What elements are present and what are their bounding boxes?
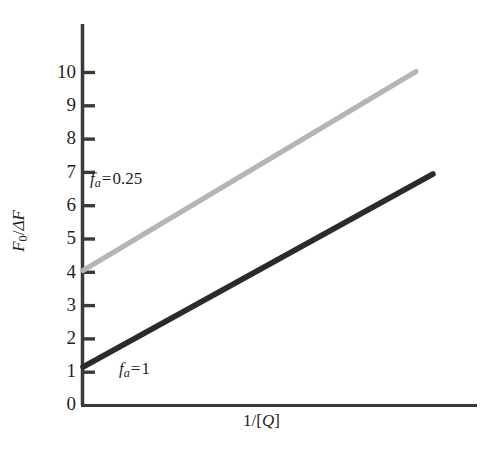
y-axis-denominator: ΔF: [9, 210, 28, 230]
x-axis-suffix: ]: [274, 411, 280, 430]
y-tick-label: 2: [50, 328, 76, 347]
annotation-operator: =: [101, 169, 113, 188]
y-tick-label: 4: [50, 262, 76, 281]
x-axis-title: 1/[Q]: [243, 412, 280, 429]
y-axis-subscript: 0: [16, 235, 30, 241]
y-tick-label: 10: [34, 62, 76, 81]
y-tick-label: 5: [50, 228, 76, 247]
y-tick-label: 3: [50, 295, 76, 314]
y-tick-label: 0: [50, 394, 76, 413]
x-axis-prefix: 1/[: [243, 411, 262, 430]
x-axis-symbol: Q: [262, 411, 274, 430]
annotation-operator: =: [130, 359, 142, 378]
y-axis-symbol: F: [9, 241, 28, 251]
series-annotation-fa-1: fa=1: [119, 360, 150, 380]
annotation-subscript: a: [95, 176, 101, 190]
annotation-value: 1: [141, 359, 150, 378]
annotation-subscript: a: [124, 366, 130, 380]
y-axis-title: F0/ΔF: [10, 196, 30, 266]
series-line-fa-1: [83, 174, 433, 367]
annotation-value: 0.25: [112, 169, 142, 188]
y-tick-label: 8: [50, 128, 76, 147]
chart-figure: 10 9 8 7 6 5 4 3 2 1 0 F0/ΔF 1/[Q] fa=0.…: [0, 0, 494, 458]
y-tick-label: 6: [50, 195, 76, 214]
y-tick-label: 1: [50, 361, 76, 380]
y-tick-label: 7: [50, 162, 76, 181]
y-axis-ticks: [84, 73, 95, 373]
y-tick-label: 9: [50, 95, 76, 114]
y-axis-separator: /: [9, 231, 28, 236]
series-annotation-fa-0-25: fa=0.25: [90, 170, 142, 190]
